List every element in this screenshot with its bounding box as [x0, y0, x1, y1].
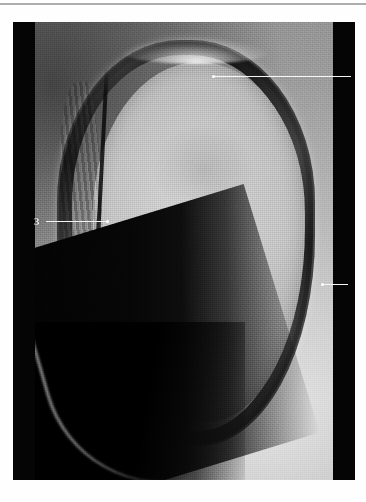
- leader-line-2: [214, 76, 351, 77]
- figure-page: 1 2 3: [0, 0, 366, 502]
- annotation-label-3[interactable]: 3: [34, 216, 40, 227]
- figure-plate: 1 2 3: [13, 22, 355, 480]
- page-top-rule: [0, 3, 366, 5]
- leader-line-1: [323, 284, 348, 285]
- dorsal-rim-highlight: [121, 38, 271, 64]
- specimen-photograph: [35, 22, 333, 480]
- leader-line-3: [46, 221, 108, 222]
